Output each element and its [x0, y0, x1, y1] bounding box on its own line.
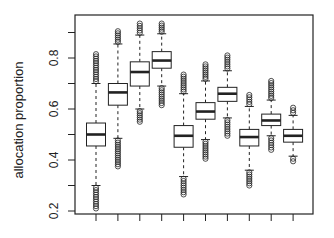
box-5 — [174, 72, 193, 197]
y-tick-label: 0.8 — [47, 49, 61, 66]
box-6 — [196, 62, 215, 162]
y-tick-label: 0.2 — [47, 202, 61, 219]
y-axis: 0.20.40.60.8 — [47, 33, 75, 220]
y-axis-label: allocation proportion — [11, 61, 26, 178]
y-tick-label: 0.4 — [47, 151, 61, 168]
x-axis — [96, 214, 293, 221]
boxplot-chart: 0.20.40.60.8 — [0, 0, 334, 238]
box-9 — [262, 78, 281, 152]
box-4 — [152, 21, 171, 108]
box-7 — [218, 53, 237, 139]
boxes-group — [87, 21, 303, 211]
y-tick-label: 0.6 — [47, 100, 61, 117]
box-10 — [284, 105, 303, 164]
box-1 — [87, 52, 106, 211]
box-2 — [108, 29, 127, 169]
box-8 — [240, 92, 259, 188]
box-3 — [130, 21, 149, 124]
